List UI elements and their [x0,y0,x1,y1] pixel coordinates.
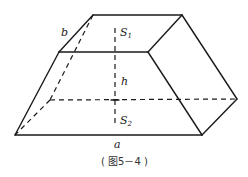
edge-bottom-right [202,99,237,135]
label-s2: S2 [120,114,133,128]
prismatoid-diagram: b S1 h S2 a ( 图5－4 ) [0,0,248,177]
edge-front-right [148,52,202,135]
edge-top-right [148,15,182,52]
edge-bottom-left-hidden [15,100,50,135]
figure-caption: ( 图5－4 ) [101,156,148,167]
label-h: h [121,75,128,88]
label-s1: S1 [120,26,132,40]
label-a: a [114,138,121,151]
edge-front-left [15,52,59,135]
edge-bottom-back-hidden [50,99,237,100]
label-b: b [61,26,68,39]
edge-back-right [182,15,237,99]
